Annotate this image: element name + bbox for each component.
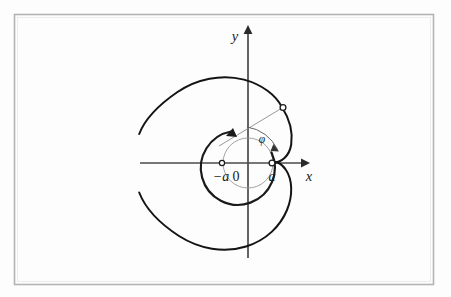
point-on-curve [280,105,286,111]
radius-vector [219,108,282,146]
pos-a-label: a [269,169,276,184]
point-neg-a [219,160,224,165]
cardioid-curve-upper [139,77,282,134]
x-axis-label: x [305,168,313,184]
point-pos-a [269,160,275,166]
y-axis-label: y [230,28,239,44]
cardioid-curve-cusp-return [272,108,291,164]
plot-frame-inner-hairline [18,18,431,282]
cardioid-diagram-canvas: y x 0 −a a φ [0,0,451,297]
y-axis-arrowhead [244,25,253,34]
origin-label: 0 [233,169,240,184]
x-axis-arrowhead [301,159,310,168]
neg-a-label: −a [213,169,229,184]
plot-frame [15,15,434,285]
cardioid-figure: y x 0 −a a φ [0,0,451,297]
phi-angle-label: φ [259,133,266,146]
